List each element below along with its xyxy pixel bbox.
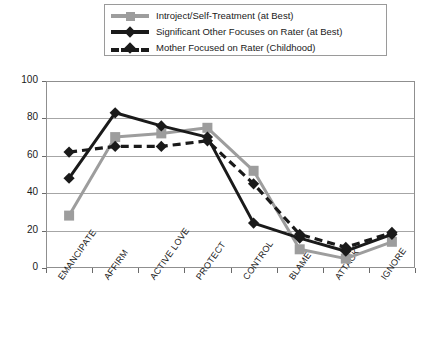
legend-label-introject: Introject/Self-Treatment (at Best) xyxy=(156,9,293,23)
x-axis-tick-mark xyxy=(231,268,232,273)
legend-label-mother: Mother Focused on Rater (Childhood) xyxy=(156,41,315,55)
y-axis-tick-mark xyxy=(42,231,46,232)
legend-key-introject xyxy=(111,9,149,23)
x-axis-tick-mark xyxy=(323,268,324,273)
y-axis-tick-mark xyxy=(42,193,46,194)
gridline xyxy=(47,118,414,119)
gridline xyxy=(47,193,414,194)
y-axis-tick-label: 60 xyxy=(6,149,38,160)
x-axis-tick-mark xyxy=(184,268,185,273)
y-axis-tick-label: 100 xyxy=(6,74,38,85)
square-marker-icon xyxy=(126,12,135,21)
x-axis-tick-mark xyxy=(369,268,370,273)
y-axis-tick-mark xyxy=(42,118,46,119)
legend-item-introject: Introject/Self-Treatment (at Best) xyxy=(105,8,386,24)
y-axis-tick-label: 80 xyxy=(6,111,38,122)
diamond-marker-icon xyxy=(124,26,135,37)
legend-key-significant-other xyxy=(111,25,149,39)
x-axis-tick-mark xyxy=(277,268,278,273)
legend-key-mother xyxy=(111,41,149,55)
chart-container: Introject/Self-Treatment (at Best) Signi… xyxy=(0,0,439,337)
y-axis-tick-mark xyxy=(42,81,46,82)
x-axis-tick-mark xyxy=(92,268,93,273)
chart-legend: Introject/Self-Treatment (at Best) Signi… xyxy=(104,4,387,56)
y-axis-tick-mark xyxy=(42,156,46,157)
x-axis-tick-mark xyxy=(415,268,416,273)
gridline xyxy=(47,231,414,232)
legend-item-significant-other: Significant Other Focuses on Rater (at B… xyxy=(105,24,386,40)
legend-item-mother: Mother Focused on Rater (Childhood) xyxy=(105,40,386,56)
plot-area xyxy=(46,81,415,268)
y-axis-tick-label: 40 xyxy=(6,186,38,197)
gridline xyxy=(47,156,414,157)
x-axis-tick-mark xyxy=(138,268,139,273)
legend-label-significant-other: Significant Other Focuses on Rater (at B… xyxy=(156,25,342,39)
y-axis-tick-label: 20 xyxy=(6,224,38,235)
x-axis-tick-mark xyxy=(46,268,47,273)
y-axis-tick-label: 0 xyxy=(6,261,38,272)
